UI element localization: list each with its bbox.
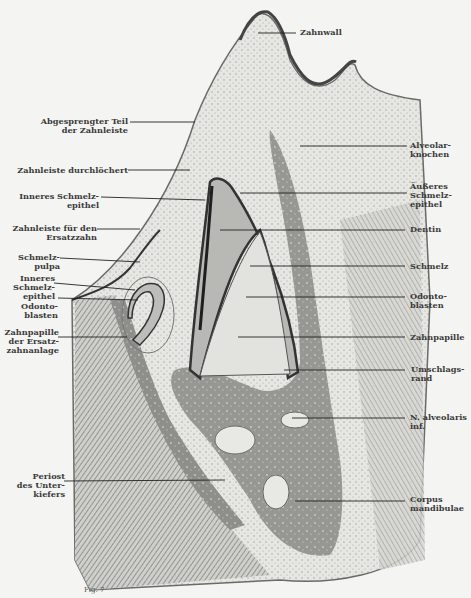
label-zahnwall: Zahnwall xyxy=(300,28,342,37)
label-line: Ersatzzahn xyxy=(12,233,97,242)
label-alveolarknochen: Alveolar- knochen xyxy=(410,141,451,159)
label-zahnleiste-ersatzzahn: Zahnleiste für den Ersatzzahn xyxy=(12,224,97,242)
figure-mark: Fig. 7 xyxy=(84,586,104,594)
label-line: blasten xyxy=(410,301,447,310)
label-n-alveolaris: N. alveolaris inf. xyxy=(410,413,467,431)
label-periost: Periost des Unter- kiefers xyxy=(17,472,65,499)
label-odontoblasten-left: Odonto- blasten xyxy=(21,302,58,320)
label-zahnpapille: Zahnpapille xyxy=(410,333,464,342)
label-line: rand xyxy=(411,374,465,383)
label-line: Zahnpapille xyxy=(410,333,464,342)
label-zahnleiste-durchloechert: Zahnleiste durchlöchert xyxy=(17,166,128,175)
label-line: blasten xyxy=(21,311,58,320)
label-zahnpapille-ersatz: Zahnpapille der Ersatz- zahnanlage xyxy=(5,328,59,355)
label-corpus-mandibulae: Corpus mandibulae xyxy=(410,495,464,513)
marrow-space xyxy=(215,426,255,454)
label-line: epithel xyxy=(410,200,452,209)
label-abgesprengter-teil: Abgesprengter Teil der Zahnleiste xyxy=(41,117,128,135)
label-aeusseres-schmelzepithel: Äußeres Schmelz- epithel xyxy=(410,182,452,209)
label-line: epithel xyxy=(13,292,55,301)
label-line: Dentin xyxy=(410,225,441,234)
label-line: mandibulae xyxy=(410,504,464,513)
label-line: pulpa xyxy=(18,262,60,271)
marrow-space xyxy=(263,475,289,509)
label-inneres-schmelzepithel-2: Inneres Schmelz- epithel xyxy=(13,274,55,301)
label-schmelz: Schmelz xyxy=(410,262,448,271)
label-line: der Zahnleiste xyxy=(41,126,128,135)
label-line: Zahnwall xyxy=(300,28,342,37)
label-odontoblasten-right: Odonto- blasten xyxy=(410,292,447,310)
label-line: Zahnleiste durchlöchert xyxy=(17,166,128,175)
label-line: knochen xyxy=(410,150,451,159)
label-line: inf. xyxy=(410,422,467,431)
label-line: kiefers xyxy=(17,490,65,499)
label-line: Schmelz xyxy=(410,262,448,271)
histology-figure: Fig. 7 xyxy=(0,0,471,598)
label-umschlagsrand: Umschlags- rand xyxy=(411,365,465,383)
marrow-space xyxy=(281,412,309,428)
label-dentin: Dentin xyxy=(410,225,441,234)
label-line: zahnanlage xyxy=(5,346,59,355)
label-line: epithel xyxy=(19,201,99,210)
label-schmelzpulpa: Schmelz- pulpa xyxy=(18,253,60,271)
label-inneres-schmelzepithel: Inneres Schmelz- epithel xyxy=(19,192,99,210)
